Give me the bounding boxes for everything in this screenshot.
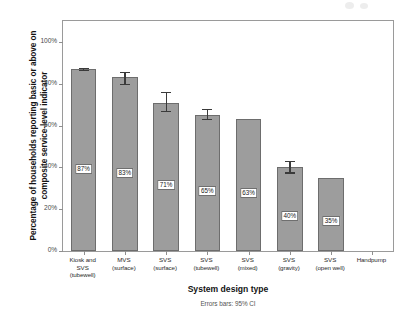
bar-value-label: 40% — [281, 211, 299, 221]
bar[interactable] — [277, 167, 303, 251]
y-axis-tick: 20% — [43, 209, 63, 210]
chart-footnote: Errors bars: 95% CI — [62, 300, 394, 307]
y-tick-label: 60% — [44, 121, 57, 128]
plot-inner: 0%20%40%60%80%100%87%83%71%65%63%40%35% — [63, 21, 393, 251]
category-label-line: SVS — [268, 256, 309, 264]
y-tick-mark — [59, 209, 63, 210]
error-bar-stem — [166, 92, 167, 112]
y-axis-tick: 40% — [43, 167, 63, 168]
error-bar-cap-bottom — [120, 84, 130, 85]
error-bar-cap-top — [285, 161, 295, 162]
category-label-line: (mixed) — [227, 264, 268, 272]
y-tick-label: 80% — [44, 79, 57, 86]
bar-value-label: 71% — [157, 180, 175, 190]
x-axis-tick — [331, 251, 332, 255]
x-axis-category-label: MVS(surface) — [103, 256, 144, 271]
bar-value-label: 87% — [75, 164, 93, 174]
error-bar-cap-bottom — [285, 172, 295, 173]
x-axis-tick — [84, 251, 85, 255]
x-axis-category-label: Kiosk andSVS(tubewell) — [62, 256, 103, 279]
y-tick-mark — [59, 167, 63, 168]
y-tick-label: 100% — [41, 37, 57, 44]
x-axis-category-label: SVS(tubewell) — [186, 256, 227, 271]
x-axis-title: System design type — [62, 284, 394, 294]
category-label-line: SVS — [62, 264, 103, 272]
bar-value-label: 83% — [116, 168, 134, 178]
x-axis-tick — [290, 251, 291, 255]
y-axis-tick: 80% — [43, 84, 63, 85]
x-axis-tick — [125, 251, 126, 255]
bar-value-label: 65% — [199, 186, 217, 196]
x-axis-tick — [207, 251, 208, 255]
bar-value-label: 63% — [240, 188, 258, 198]
category-label-line: (tubewell) — [186, 264, 227, 272]
category-label-line: (gravity) — [268, 264, 309, 272]
error-bar-cap-top — [120, 72, 130, 73]
bar[interactable] — [112, 77, 138, 251]
scan-artifact — [360, 3, 368, 9]
y-tick-label: 40% — [44, 162, 57, 169]
category-label-line: (surface) — [145, 264, 186, 272]
category-label-line: SVS — [186, 256, 227, 264]
category-label-line: Kiosk and — [62, 256, 103, 264]
category-label-line: SVS — [227, 256, 268, 264]
category-label-line: Handpump — [351, 256, 392, 264]
y-tick-mark — [59, 42, 63, 43]
bar[interactable] — [71, 69, 97, 251]
bar[interactable] — [195, 115, 221, 251]
scan-artifact — [345, 2, 354, 9]
y-tick-mark — [59, 251, 63, 252]
bar[interactable] — [318, 178, 344, 251]
x-axis-tick — [372, 251, 373, 255]
x-axis-category-label: SVS(open well) — [310, 256, 351, 271]
bar[interactable] — [153, 103, 179, 251]
category-label-line: (tubewell) — [62, 271, 103, 279]
y-tick-label: 20% — [44, 204, 57, 211]
error-bar-cap-bottom — [79, 70, 89, 71]
x-axis-category-label: Handpump — [351, 256, 392, 264]
category-label-line: SVS — [310, 256, 351, 264]
y-tick-mark — [59, 84, 63, 85]
bar-value-label: 35% — [322, 216, 340, 226]
error-bar-cap-top — [161, 92, 171, 93]
y-tick-label: 0% — [48, 246, 57, 253]
category-label-line: SVS — [145, 256, 186, 264]
bar[interactable] — [236, 119, 262, 251]
x-axis-category-label: SVS(surface) — [145, 256, 186, 271]
error-bar-cap-bottom — [202, 119, 212, 120]
category-label-line: (surface) — [103, 264, 144, 272]
y-axis-tick: 60% — [43, 126, 63, 127]
y-axis-tick: 0% — [43, 251, 63, 252]
error-bar-cap-bottom — [161, 111, 171, 112]
chart-figure: Percentage of households reporting basic… — [0, 0, 406, 317]
category-label-line: MVS — [103, 256, 144, 264]
x-axis-tick — [249, 251, 250, 255]
x-axis-category-label: SVS(mixed) — [227, 256, 268, 271]
error-bar-cap-top — [202, 109, 212, 110]
y-axis-tick: 100% — [43, 42, 63, 43]
y-tick-mark — [59, 126, 63, 127]
x-axis-category-label: SVS(gravity) — [268, 256, 309, 271]
y-axis-title: Percentage of households reporting basic… — [29, 21, 50, 251]
plot-area: 0%20%40%60%80%100%87%83%71%65%63%40%35% — [62, 20, 394, 252]
category-label-line: (open well) — [310, 264, 351, 272]
x-axis-tick — [166, 251, 167, 255]
